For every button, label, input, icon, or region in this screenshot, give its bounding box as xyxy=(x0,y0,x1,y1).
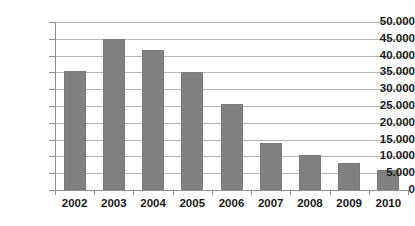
y-axis-tick-mark xyxy=(49,123,55,124)
x-axis-line xyxy=(55,190,408,191)
bar xyxy=(181,72,203,190)
y-axis-tick-label: 25.000 xyxy=(363,100,415,112)
y-axis-tick-label: 15.000 xyxy=(363,134,415,146)
y-axis-tick-label: 40.000 xyxy=(363,50,415,62)
y-axis-tick-mark xyxy=(49,156,55,157)
x-axis-tick-mark xyxy=(290,190,291,195)
x-axis-tick-mark xyxy=(369,190,370,195)
y-axis-tick-mark xyxy=(49,106,55,107)
x-axis-tick-label: 2003 xyxy=(94,198,134,210)
x-axis-tick-label: 2007 xyxy=(251,198,291,210)
x-axis-tick-mark xyxy=(212,190,213,195)
x-axis-tick-mark xyxy=(55,190,56,195)
y-axis-tick-mark xyxy=(49,39,55,40)
x-axis-tick-label: 2006 xyxy=(212,198,252,210)
y-axis-tick-mark xyxy=(49,173,55,174)
x-axis-tick-label: 2002 xyxy=(55,198,95,210)
y-axis-tick-mark xyxy=(49,89,55,90)
x-axis-tick-mark xyxy=(251,190,252,195)
y-axis-tick-label: 30.000 xyxy=(363,83,415,95)
plot-area xyxy=(55,22,408,190)
y-axis-tick-label: 50.000 xyxy=(363,16,415,28)
bar xyxy=(338,163,360,190)
x-axis-tick-label: 2010 xyxy=(368,198,408,210)
x-axis-tick-label: 2009 xyxy=(329,198,369,210)
y-axis-tick-label: 10.000 xyxy=(363,151,415,163)
y-axis-tick-mark xyxy=(49,56,55,57)
x-axis-tick-mark xyxy=(408,190,409,195)
y-axis-tick-label: 20.000 xyxy=(363,117,415,129)
bar xyxy=(260,143,282,190)
bar xyxy=(103,39,125,190)
y-axis-tick-label: 35.000 xyxy=(363,67,415,79)
x-axis-tick-mark xyxy=(94,190,95,195)
bar-chart: 05.00010.00015.00020.00025.00030.00035.0… xyxy=(0,0,415,226)
y-axis-tick-mark xyxy=(49,72,55,73)
x-axis-tick-mark xyxy=(330,190,331,195)
x-axis-tick-label: 2004 xyxy=(133,198,173,210)
y-axis-tick-mark xyxy=(49,22,55,23)
y-axis-tick-label: 45.000 xyxy=(363,33,415,45)
gridline xyxy=(55,22,408,23)
bar xyxy=(64,71,86,190)
y-axis-line xyxy=(55,22,56,191)
x-axis-tick-mark xyxy=(133,190,134,195)
bar xyxy=(299,155,321,190)
bar xyxy=(142,50,164,190)
x-axis-tick-mark xyxy=(173,190,174,195)
y-axis-tick-mark xyxy=(49,140,55,141)
x-axis-tick-label: 2008 xyxy=(290,198,330,210)
y-axis-tick-label: 5.000 xyxy=(363,167,415,179)
bar xyxy=(221,104,243,190)
x-axis-tick-label: 2005 xyxy=(172,198,212,210)
